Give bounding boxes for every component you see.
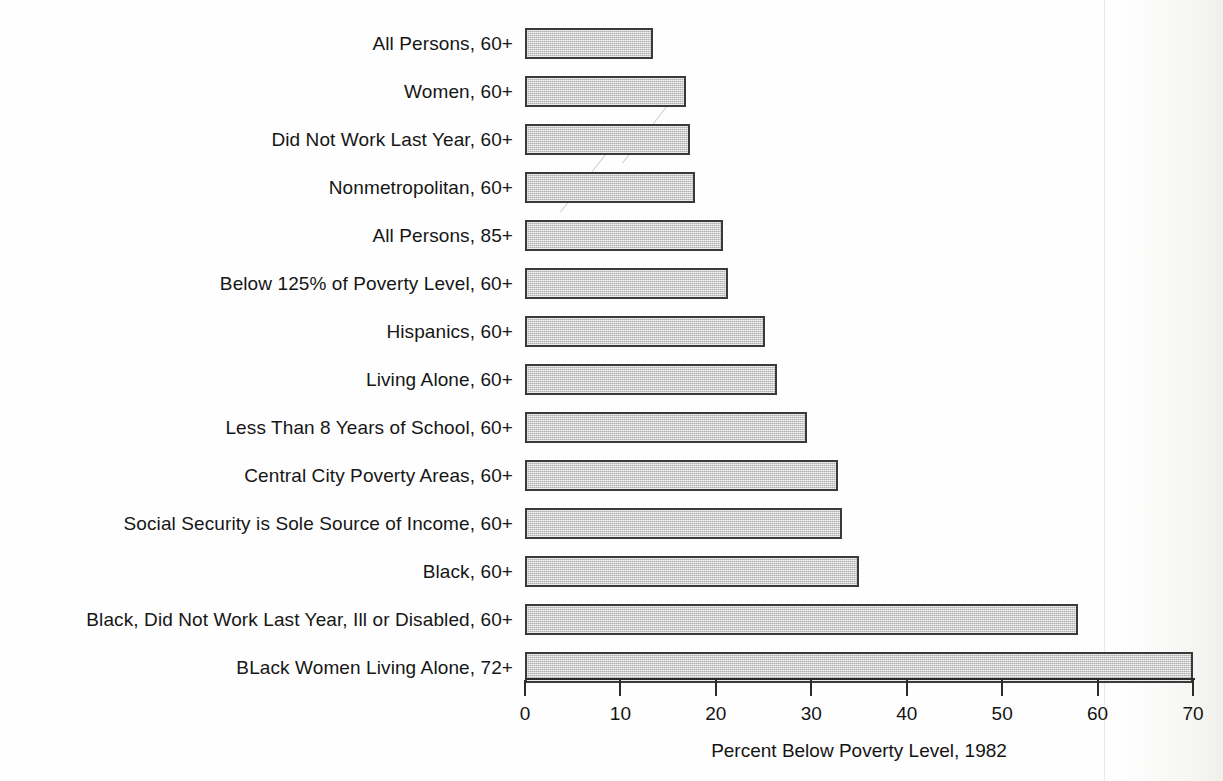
chart-row: All Persons, 85+: [0, 219, 1223, 253]
chart-row: All Persons, 60+: [0, 27, 1223, 61]
axis-tick-label: 20: [691, 703, 741, 725]
x-axis-title: Percent Below Poverty Level, 1982: [525, 740, 1193, 762]
bar-category-label: Central City Poverty Areas, 60+: [244, 459, 513, 493]
axis-tick-label: 70: [1168, 703, 1218, 725]
bar-category-label: Social Security is Sole Source of Income…: [124, 507, 513, 541]
bar-category-label: BLack Women Living Alone, 72+: [236, 651, 513, 685]
bar: [525, 76, 686, 107]
bar-category-label: Black, 60+: [423, 555, 513, 589]
bar-category-label: Nonmetropolitan, 60+: [329, 171, 513, 205]
axis-tick: [619, 680, 621, 696]
chart-row: Less Than 8 Years of School, 60+: [0, 411, 1223, 445]
axis-tick: [810, 680, 812, 696]
chart-row: Black, 60+: [0, 555, 1223, 589]
plot-area: All Persons, 60+Women, 60+Did Not Work L…: [0, 0, 1223, 781]
chart-row: Social Security is Sole Source of Income…: [0, 507, 1223, 541]
bar: [525, 124, 690, 155]
chart-row: Hispanics, 60+: [0, 315, 1223, 349]
axis-tick-label: 40: [882, 703, 932, 725]
bar-category-label: Black, Did Not Work Last Year, Ill or Di…: [86, 603, 513, 637]
bar: [525, 28, 653, 59]
axis-tick: [1097, 680, 1099, 696]
poverty-bar-chart: All Persons, 60+Women, 60+Did Not Work L…: [0, 0, 1223, 781]
chart-row: Nonmetropolitan, 60+: [0, 171, 1223, 205]
bar: [525, 316, 765, 347]
bar-category-label: Below 125% of Poverty Level, 60+: [220, 267, 513, 301]
bar-category-label: All Persons, 60+: [373, 27, 513, 61]
bar-category-label: Living Alone, 60+: [366, 363, 513, 397]
bar-category-label: Did Not Work Last Year, 60+: [271, 123, 513, 157]
bar: [525, 412, 807, 443]
axis-tick-label: 60: [1073, 703, 1123, 725]
bar: [525, 172, 695, 203]
bar: [525, 268, 728, 299]
chart-row: Black, Did Not Work Last Year, Ill or Di…: [0, 603, 1223, 637]
axis-tick: [715, 680, 717, 696]
axis-tick-label: 0: [500, 703, 550, 725]
chart-row: Living Alone, 60+: [0, 363, 1223, 397]
axis-tick-label: 30: [786, 703, 836, 725]
bar: [525, 220, 723, 251]
bar: [525, 508, 842, 539]
axis-tick-label: 10: [595, 703, 645, 725]
chart-row: Did Not Work Last Year, 60+: [0, 123, 1223, 157]
chart-row: Below 125% of Poverty Level, 60+: [0, 267, 1223, 301]
axis-tick: [1001, 680, 1003, 696]
bar: [525, 604, 1078, 635]
bar-category-label: Hispanics, 60+: [386, 315, 513, 349]
bar-category-label: Women, 60+: [404, 75, 513, 109]
axis-tick: [906, 680, 908, 696]
bar: [525, 556, 859, 587]
bar: [525, 460, 838, 491]
bar-category-label: Less Than 8 Years of School, 60+: [225, 411, 513, 445]
axis-tick: [1192, 680, 1194, 696]
bar: [525, 364, 777, 395]
chart-row: Central City Poverty Areas, 60+: [0, 459, 1223, 493]
chart-row: Women, 60+: [0, 75, 1223, 109]
bar-category-label: All Persons, 85+: [373, 219, 513, 253]
axis-baseline: [525, 678, 1195, 680]
axis-tick-label: 50: [977, 703, 1027, 725]
axis-tick: [524, 680, 526, 696]
